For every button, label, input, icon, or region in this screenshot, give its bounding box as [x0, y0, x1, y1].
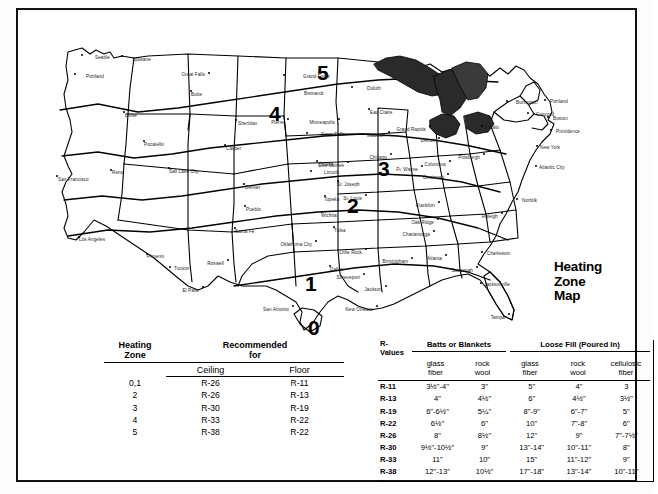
- loose-cellulosic-fiber-cell: 3½": [603, 394, 650, 403]
- city-label: St. Louis: [343, 197, 362, 202]
- row-cells: 6"-6½"5¼"8"-9"6"-7"5": [414, 407, 650, 416]
- rvalue-cell: R-30: [378, 443, 414, 452]
- city-label: Savannah: [452, 269, 474, 274]
- city-label: Boston: [553, 117, 568, 122]
- city-label: Seattle: [95, 56, 110, 61]
- left-table-subheader-spacer: [104, 365, 166, 375]
- recommended-for-header: Recommended for: [166, 340, 344, 360]
- subheader-cell: cellulosicfiber: [602, 360, 650, 378]
- batts-rock-wool-cell: 10": [461, 455, 508, 464]
- batts-glass-fiber-cell: 8": [414, 431, 461, 440]
- loose-cellulosic-fiber-cell: 3: [603, 382, 650, 391]
- batts-rock-wool-cell: 4½": [461, 394, 508, 403]
- loose-glass-fiber-cell: 12": [508, 431, 555, 440]
- floor-cell: R-11: [255, 378, 344, 388]
- city-label: Grand Forks: [303, 75, 330, 80]
- batts-rock-wool-cell: 3": [461, 382, 508, 391]
- batts-glass-fiber-cell: 6½": [414, 419, 461, 428]
- city-label: Tucson: [174, 267, 190, 272]
- batts-rock-wool-cell: 6": [461, 419, 508, 428]
- city-label: Charleston: [487, 252, 510, 257]
- city-label: St. Joseph: [337, 183, 360, 188]
- zone-cell: 5: [104, 427, 166, 437]
- loose-rock-wool-cell: 4½": [555, 394, 602, 403]
- city-label: San Francisco: [58, 178, 89, 183]
- loose-rock-wool-cell: 6"-7": [555, 407, 602, 416]
- city-label: Duluth: [367, 87, 381, 92]
- loose-cellulosic-fiber-cell: 5": [603, 407, 650, 416]
- heating-zone-map: 5 4 3 2 1 0 SeattleSpokanePortlandGreat …: [38, 24, 638, 334]
- map-title: Heating Zone Map: [554, 260, 602, 304]
- loose-glass-fiber-cell: 17"-18": [508, 467, 555, 476]
- loose-fill-group-rule: [510, 351, 650, 352]
- city-label: Great Falls: [181, 73, 205, 78]
- city-label: Pittsburgh: [458, 156, 480, 161]
- city-label: Grand Rapids: [396, 128, 426, 133]
- recommended-r-value-table: Heating Zone Recommended for Ceiling Flo…: [104, 340, 344, 438]
- table-row: 0,1R-26R-11: [104, 377, 344, 389]
- us-map-outline: [38, 24, 638, 334]
- city-label: Wichita: [321, 214, 337, 219]
- ceiling-cell: R-33: [166, 415, 255, 425]
- rvalue-cell: R-38: [378, 467, 414, 476]
- city-label: Concord: [536, 113, 554, 118]
- subheader-cells: glassfiberrockwoolglassfiberrockwoolcell…: [412, 360, 650, 378]
- city-label: Phoenix: [147, 255, 164, 260]
- city-label: Atlantic City: [539, 166, 565, 171]
- loose-glass-fiber-cell: 13"-14": [508, 443, 555, 452]
- loose-fill-group-header: Loose Fill (Poured In): [510, 340, 650, 351]
- city-label: Jackson: [364, 288, 382, 293]
- city-label: Birmingham: [382, 260, 408, 265]
- floor-cell: R-22: [255, 415, 344, 425]
- city-label: Ft. Wayne: [396, 168, 418, 173]
- city-label: Chattanooga: [403, 233, 430, 238]
- map-title-line: Map: [554, 289, 602, 304]
- city-label: Pocatello: [144, 143, 164, 148]
- floor-header: Floor: [255, 365, 344, 375]
- loose-glass-fiber-cell: 8"-9": [508, 407, 555, 416]
- city-label: Frankfort: [416, 204, 435, 209]
- city-label: Tulsa: [334, 229, 346, 234]
- loose-rock-wool-cell: 10"-11": [555, 443, 602, 452]
- table-row: 2R-26R-13: [104, 389, 344, 401]
- floor-cell: R-22: [255, 427, 344, 437]
- top-caption: [318, 9, 658, 18]
- table-row: R-226½"6"10"7"-8"6": [378, 417, 650, 429]
- batts-glass-fiber-cell: 3½"-4": [414, 382, 461, 391]
- zone-number: 5: [317, 62, 329, 83]
- right-table-body: R-113½"-4"3"5"4"3R-134"4½"6"4½"3½"R-196"…: [378, 381, 650, 478]
- city-label: Dallas: [330, 268, 343, 273]
- batts-glass-fiber-cell: 6"-6½": [414, 407, 461, 416]
- loose-glass-fiber-cell: 6": [508, 394, 555, 403]
- heating-zone-header-line2: Zone: [104, 350, 166, 360]
- row-cells: 6½"6"10"7"-8"6": [414, 419, 650, 428]
- table-row: 3R-30R-19: [104, 402, 344, 414]
- city-label: Des Moines: [319, 164, 344, 169]
- city-label: New York: [540, 146, 560, 151]
- batts-rock-wool-cell: 10½": [461, 467, 508, 476]
- insulation-thickness-table: R- Values Batts or Blankets Loose Fill (…: [378, 340, 650, 478]
- city-label: Chicago: [369, 156, 387, 161]
- loose-rock-wool-cell: 7"-8": [555, 419, 602, 428]
- row-cells: 12"-13"10½"17"-18"13"-14"10"-11": [414, 467, 650, 476]
- loose-glass-fiber-cell: 5": [508, 382, 555, 391]
- city-label: Casper: [226, 147, 241, 152]
- city-label: Columbus: [425, 163, 446, 168]
- left-table-body: 0,1R-26R-112R-26R-133R-30R-194R-33R-225R…: [104, 377, 344, 438]
- batts-rock-wool-cell: 8½": [461, 431, 508, 440]
- table-row: 5R-38R-22: [104, 426, 344, 438]
- ceiling-cell: R-30: [166, 403, 255, 413]
- ceiling-header: Ceiling: [166, 365, 255, 375]
- recommended-header-line2: for: [166, 350, 344, 360]
- batts-rock-wool-cell: 9": [461, 443, 508, 452]
- loose-cellulosic-fiber-cell: 8": [603, 443, 650, 452]
- subheader-spacer: [378, 360, 412, 378]
- city-label: Atlanta: [427, 257, 442, 262]
- city-label: Oklahoma City: [281, 243, 312, 248]
- batts-glass-fiber-cell: 12"-13": [414, 467, 461, 476]
- row-cells: 9½"-10½"9"13"-14"10"-11"8": [414, 443, 650, 452]
- city-label: Salt Lake City: [169, 170, 199, 175]
- city-label: Detroit: [421, 139, 435, 144]
- city-label: New Orleans: [345, 308, 373, 313]
